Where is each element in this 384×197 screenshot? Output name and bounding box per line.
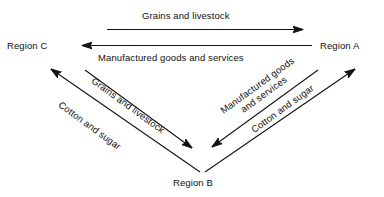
node-label-region-b: Region B [173, 177, 213, 188]
diagram-canvas [0, 0, 384, 197]
edge-label-a-to-c-manufactured: Manufactured goods and services [98, 52, 244, 63]
edge-label-c-to-a-grains: Grains and livestock [142, 10, 230, 21]
trade-flow-diagram: Region C Region A Region B Grains and li… [0, 0, 384, 197]
node-label-region-a: Region A [320, 40, 359, 51]
node-label-region-c: Region C [7, 40, 47, 51]
